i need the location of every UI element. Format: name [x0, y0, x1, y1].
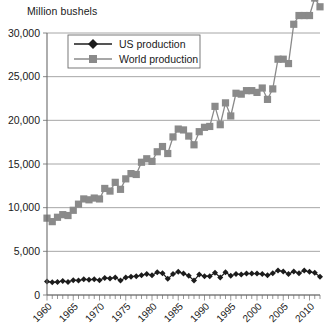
data-point-marker [265, 272, 271, 278]
x-tick-label: 1970 [83, 300, 107, 324]
data-point-marker [65, 279, 71, 285]
data-point-marker [164, 150, 171, 157]
chart-legend: US productionWorld production [68, 35, 200, 68]
data-point-marker [259, 271, 265, 277]
data-point-marker [296, 270, 302, 276]
data-point-marker [96, 195, 103, 202]
data-point-marker [133, 273, 139, 279]
y-axis-labels-group: 30,00025,00020,00015,00010,0005,0000 [8, 27, 40, 301]
data-point-marker [154, 269, 160, 275]
data-point-marker [238, 271, 244, 277]
data-point-marker [175, 269, 181, 275]
y-tick-label: 20,000 [8, 114, 40, 126]
data-point-marker [133, 171, 140, 178]
y-tick-label: 30,000 [8, 27, 40, 39]
data-point-marker [107, 275, 113, 281]
data-point-marker [123, 275, 129, 281]
x-tick-label: 1995 [214, 300, 238, 324]
data-point-marker [311, 0, 318, 2]
data-point-marker [206, 123, 213, 130]
data-point-marker [76, 278, 82, 284]
data-point-marker [254, 271, 260, 277]
x-tick-label: 2010 [293, 300, 317, 324]
data-point-marker [227, 112, 234, 119]
gridlines-group [43, 33, 320, 295]
data-point-marker [112, 275, 118, 281]
data-point-marker [102, 275, 108, 281]
data-point-marker [128, 274, 134, 280]
data-point-marker [291, 268, 297, 274]
data-point-marker [202, 273, 208, 279]
data-point-marker [159, 143, 166, 150]
data-point-marker [233, 271, 239, 277]
y-tick-label: 10,000 [8, 201, 40, 213]
data-point-marker [211, 103, 218, 110]
data-point-marker [118, 278, 124, 284]
x-tick-label: 1975 [109, 300, 133, 324]
x-tick-label: 1985 [162, 300, 186, 324]
x-tick-label: 1965 [57, 300, 81, 324]
data-point-marker [290, 21, 297, 28]
data-point-marker [181, 271, 187, 277]
series-world-production [43, 0, 323, 225]
data-point-marker [285, 60, 292, 67]
data-point-marker [244, 271, 250, 277]
data-point-marker [148, 158, 155, 165]
data-point-marker [139, 272, 145, 278]
y-tick-label: 25,000 [8, 70, 40, 82]
x-tick-label: 2000 [240, 300, 264, 324]
legend-marker [89, 55, 97, 63]
data-point-marker [269, 85, 276, 92]
legend-label: World production [119, 53, 198, 65]
data-point-marker [185, 132, 192, 139]
x-axis-ticks-group [47, 295, 320, 301]
data-point-marker [217, 121, 224, 128]
data-point-marker [81, 276, 87, 282]
data-point-marker [97, 277, 103, 283]
data-point-marker [149, 272, 155, 278]
series-us-production [44, 268, 323, 286]
data-point-marker [144, 271, 150, 277]
x-tick-label: 1990 [188, 300, 212, 324]
data-point-marker [270, 270, 276, 276]
data-point-marker [249, 271, 255, 277]
data-point-marker [264, 96, 271, 103]
data-point-marker [91, 276, 97, 282]
data-point-marker [117, 186, 124, 193]
data-point-marker [259, 84, 266, 91]
x-tick-label: 2005 [267, 300, 291, 324]
legend-label: US production [119, 38, 186, 50]
y-tick-label: 5,000 [14, 245, 40, 257]
y-tick-label: 0 [34, 289, 40, 301]
data-point-marker [286, 271, 292, 277]
data-point-marker [301, 268, 307, 274]
data-point-marker [60, 278, 66, 284]
data-point-marker [49, 279, 55, 285]
chart-container: Million bushels 30,00025,00020,00015,000… [0, 0, 327, 332]
y-tick-label: 15,000 [8, 158, 40, 170]
x-axis-labels-group: 1960196519701975198019851990199520002005… [30, 300, 316, 324]
line-chart-plot: 30,00025,00020,00015,00010,0005,0000 196… [0, 0, 327, 332]
x-tick-label: 1980 [135, 300, 159, 324]
data-point-marker [106, 187, 113, 194]
data-point-marker [222, 99, 229, 106]
data-point-marker [306, 12, 313, 19]
data-point-marker [280, 268, 286, 274]
data-point-marker [275, 268, 281, 274]
data-point-marker [307, 269, 313, 275]
data-point-marker [316, 3, 323, 10]
data-point-marker [169, 133, 176, 140]
data-point-marker [55, 279, 61, 285]
data-point-marker [112, 179, 119, 186]
data-point-marker [70, 277, 76, 283]
x-tick-label: 1960 [30, 300, 54, 324]
data-point-marker [190, 141, 197, 148]
data-point-marker [86, 277, 92, 283]
